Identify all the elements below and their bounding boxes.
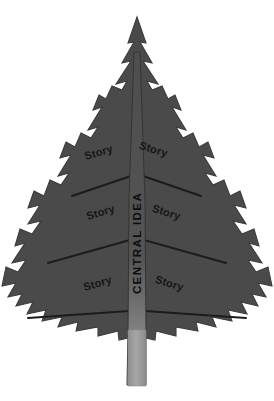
central-idea-label[interactable]: CENTRAL IDEA bbox=[131, 192, 143, 294]
tree-diagram: Story Story Story Story Story Story CENT… bbox=[0, 0, 274, 401]
